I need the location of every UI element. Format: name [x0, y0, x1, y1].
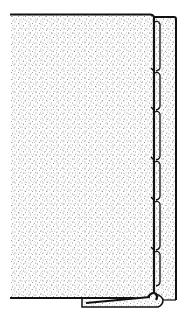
panel-body — [10, 15, 154, 298]
diagram-canvas: Stippled panel section with segmented hi… — [0, 0, 189, 316]
panel-section-drawing — [0, 0, 189, 316]
